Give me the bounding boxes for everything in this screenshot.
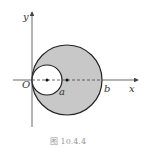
y-axis-label: y: [22, 11, 29, 22]
point-a-label: a: [59, 86, 65, 97]
large-center-dot: [65, 78, 68, 81]
point-b-label: b: [104, 83, 110, 94]
figure-caption: 图 10.4.4: [50, 137, 86, 146]
origin-label: O: [22, 79, 30, 90]
x-axis-label: x: [129, 83, 135, 94]
figure-canvas: y O a b x 图 10.4.4: [0, 0, 146, 147]
small-center-dot: [45, 78, 48, 81]
